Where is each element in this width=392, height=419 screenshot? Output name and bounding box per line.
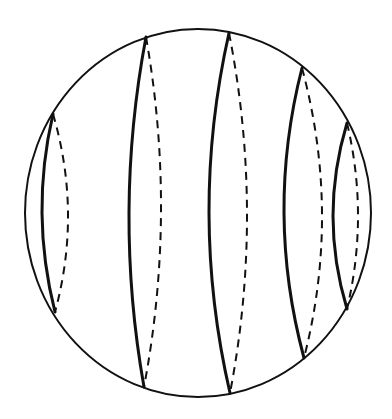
back-arc-1 bbox=[53, 114, 68, 312]
meridian-curves bbox=[42, 33, 358, 393]
front-arc-3 bbox=[209, 33, 230, 393]
front-arc-5 bbox=[333, 123, 347, 309]
front-arc-1 bbox=[42, 114, 55, 312]
back-arc-4 bbox=[302, 68, 322, 358]
back-arc-5 bbox=[347, 123, 358, 309]
sphere-outline bbox=[25, 29, 371, 397]
sphere-diagram bbox=[0, 0, 392, 419]
back-arc-2 bbox=[144, 37, 161, 387]
front-arc-4 bbox=[284, 68, 304, 358]
back-arc-3 bbox=[229, 33, 247, 393]
front-arc-2 bbox=[129, 37, 146, 387]
sphere-svg bbox=[0, 0, 392, 419]
